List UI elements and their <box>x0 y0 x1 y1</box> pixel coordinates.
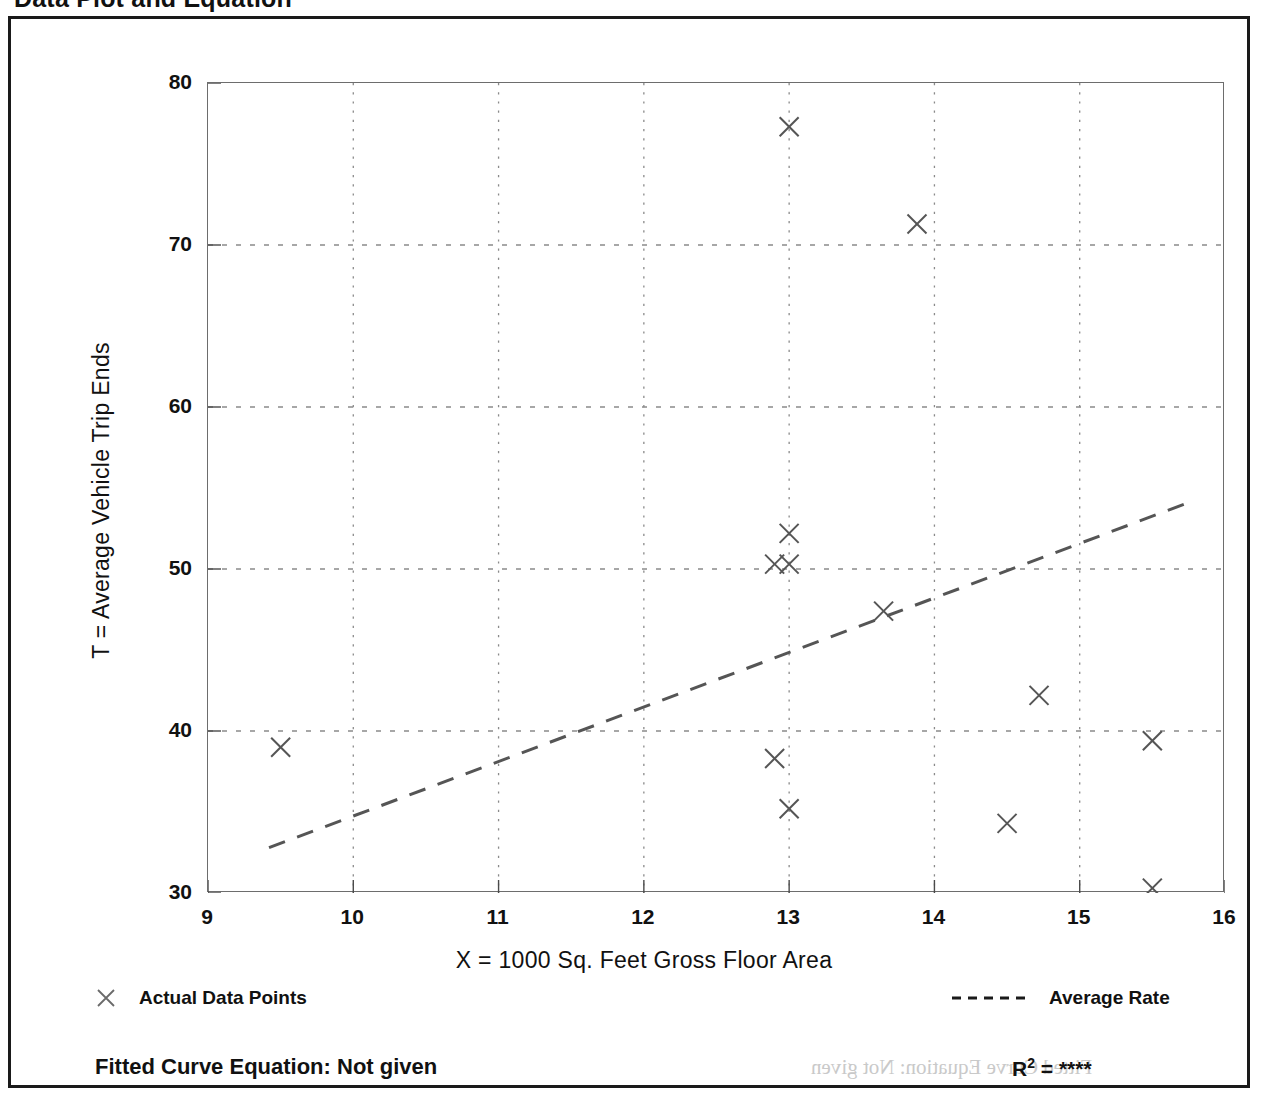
gridlines <box>208 83 1225 893</box>
x-axis-tick-label: 15 <box>1049 905 1109 929</box>
r-squared-value: R2 = **** <box>1012 1055 1092 1081</box>
data-points <box>271 117 1162 893</box>
r2-symbol: R <box>1012 1057 1027 1080</box>
y-axis-tick-label: 80 <box>122 70 192 94</box>
legend-label-actual-data-points: Actual Data Points <box>139 987 307 1009</box>
data-point-8 <box>907 214 926 233</box>
y-axis-tick-label: 30 <box>122 880 192 904</box>
x-axis-tick-label: 12 <box>613 905 673 929</box>
x-axis-tick-label: 14 <box>903 905 963 929</box>
data-point-11 <box>1143 731 1162 750</box>
y-axis-tick-label: 40 <box>122 718 192 742</box>
legend-item-average-rate: Average Rate <box>951 987 1170 1009</box>
x-axis-title: X = 1000 Sq. Feet Gross Floor Area <box>11 947 1266 974</box>
r2-stars: **** <box>1059 1057 1092 1080</box>
page-title: Data Plot and Equation <box>14 0 292 13</box>
x-axis-tick-label: 9 <box>177 905 237 929</box>
y-axis-title: T = Average Vehicle Trip Ends <box>88 121 115 881</box>
r2-exponent: 2 <box>1027 1055 1035 1071</box>
data-point-10 <box>1030 686 1049 705</box>
data-point-9 <box>998 814 1017 833</box>
x-axis-tick-label: 10 <box>322 905 382 929</box>
x-marker-icon <box>95 987 117 1009</box>
data-point-0 <box>271 738 290 757</box>
r2-equals: = <box>1035 1057 1059 1080</box>
plot-svg <box>208 83 1225 893</box>
data-point-12 <box>1143 879 1162 893</box>
x-axis-tick-label: 13 <box>758 905 818 929</box>
dashed-line-icon <box>951 993 1029 1003</box>
data-point-5 <box>765 749 784 768</box>
plot-area <box>207 82 1224 892</box>
figure-frame: T = Average Vehicle Trip Ends X = 1000 S… <box>8 16 1250 1088</box>
y-axis-tick-label: 70 <box>122 232 192 256</box>
y-axis-tick-label: 50 <box>122 556 192 580</box>
y-axis-tick-label: 60 <box>122 394 192 418</box>
fitted-curve-equation: Fitted Curve Equation: Not given <box>95 1054 437 1080</box>
average-rate-line <box>269 504 1184 847</box>
x-axis-tick-label: 16 <box>1194 905 1254 929</box>
x-axis-tick-label: 11 <box>468 905 528 929</box>
legend-item-actual-data-points: Actual Data Points <box>95 987 307 1009</box>
tick-marks <box>208 83 1225 893</box>
legend-label-average-rate: Average Rate <box>1049 987 1170 1009</box>
data-point-7 <box>874 602 893 621</box>
